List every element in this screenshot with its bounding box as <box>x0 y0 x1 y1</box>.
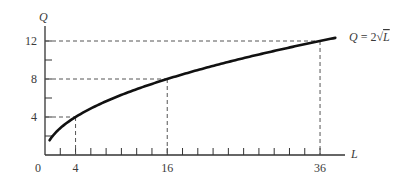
production-function-chart: 0416364812 Q L Q = 2√L <box>0 0 408 182</box>
x-tick-label: 4 <box>73 161 79 175</box>
y-axis-label: Q <box>39 10 48 24</box>
y-tick-label: 8 <box>31 72 37 86</box>
axis-ticks <box>45 41 320 155</box>
axis-labels: 0416364812 <box>25 34 326 175</box>
x-tick-label: 16 <box>161 161 173 175</box>
curve-q-2-sqrt-l <box>50 38 336 140</box>
x-tick-label: 36 <box>314 161 326 175</box>
function-label-eq: = 2 <box>358 30 377 44</box>
x-axis-label: L <box>350 147 358 161</box>
y-tick-label: 4 <box>31 110 37 124</box>
function-label-lhs: Q <box>349 30 358 44</box>
reference-dashed-lines <box>45 41 320 155</box>
function-label-arg: L <box>382 30 390 44</box>
function-label: Q = 2√L <box>349 30 390 44</box>
y-tick-label: 12 <box>25 34 37 48</box>
x-tick-label: 0 <box>35 161 41 175</box>
